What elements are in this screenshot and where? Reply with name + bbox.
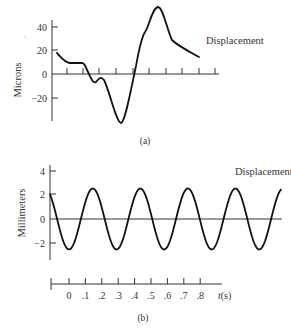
chart-a-stray-mark (24, 36, 25, 37)
chart-b-ytick-label-4: 4 (40, 166, 45, 177)
chart-b-ytick-label-neg2: −2 (34, 238, 45, 249)
chart-b-time-axis-title: t(s) (218, 290, 231, 302)
chart-b: 4 2 0 −2 Millimeters Displacement 0 .1 .… (16, 165, 291, 324)
chart-b-panel-label: (b) (137, 313, 148, 324)
chart-a-series-label: Displacement (206, 35, 264, 46)
svg-text:.7: .7 (180, 290, 188, 301)
chart-a-ytick-label-0: 0 (42, 69, 47, 80)
figure: 40 20 0 −20 Microns Displacement (a) 4 2… (0, 0, 291, 329)
svg-text:0: 0 (67, 290, 72, 301)
chart-b-ytick-label-2: 2 (40, 189, 45, 200)
svg-text:.3: .3 (114, 290, 122, 301)
chart-b-y-axis-title: Millimeters (16, 189, 27, 238)
chart-a-panel-label: (a) (140, 136, 151, 147)
svg-text:.2: .2 (98, 290, 106, 301)
chart-b-ytick-label-0: 0 (40, 214, 45, 225)
svg-text:.1: .1 (82, 290, 90, 301)
chart-b-time-ticks (69, 278, 200, 284)
svg-text:.4: .4 (131, 290, 139, 301)
chart-a: 40 20 0 −20 Microns Displacement (a) (12, 7, 264, 147)
chart-a-ytick-label-40: 40 (37, 22, 47, 33)
svg-text:.8: .8 (196, 290, 204, 301)
chart-a-y-axis-title: Microns (12, 63, 23, 98)
svg-text:.6: .6 (164, 290, 172, 301)
chart-a-ytick-label-neg20: −20 (31, 93, 47, 104)
chart-b-series-label: Displacement (235, 166, 291, 177)
chart-a-ytick-label-20: 20 (37, 45, 47, 56)
svg-text:.5: .5 (147, 290, 155, 301)
chart-a-displacement-line (57, 7, 199, 123)
chart-b-time-tick-labels: 0 .1 .2 .3 .4 .5 .6 .7 .8 (67, 290, 204, 301)
